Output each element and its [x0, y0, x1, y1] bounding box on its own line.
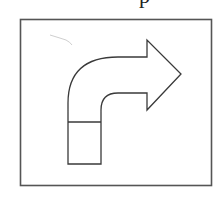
pencil-mark	[50, 35, 72, 45]
diagram-canvas: p	[0, 0, 222, 201]
sign-frame	[21, 20, 212, 186]
turn-right-sign	[0, 0, 222, 201]
turn-right-arrow-icon	[68, 40, 181, 164]
cutoff-caption-text: p	[139, 0, 150, 7]
